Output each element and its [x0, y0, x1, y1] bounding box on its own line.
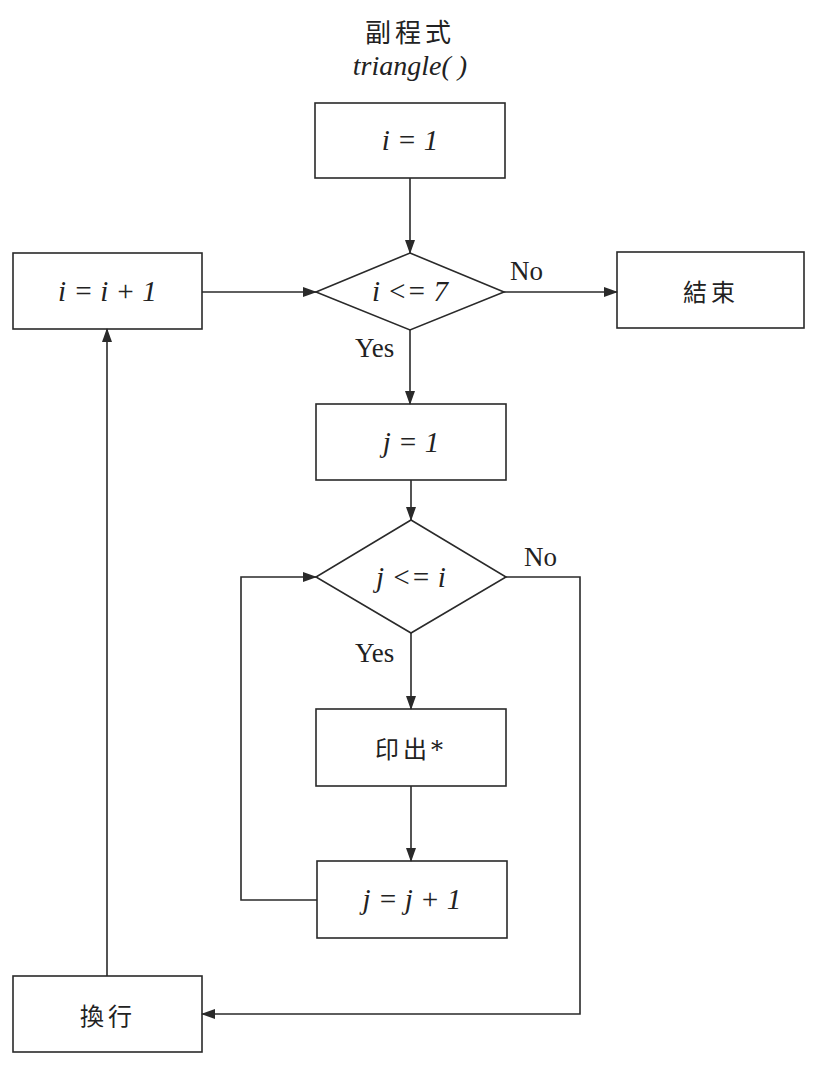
node-inc-j: j = j + 1 [317, 861, 507, 938]
label-cond-i-no: No [510, 256, 543, 287]
node-cond-j: j <= i [330, 540, 492, 614]
label-cond-j-yes: Yes [355, 638, 394, 669]
node-cond-i: i <= 7 [330, 253, 490, 330]
node-print: 印出* [316, 709, 506, 786]
node-inc-i: i = i + 1 [13, 253, 202, 329]
node-init-j: j = 1 [316, 404, 506, 480]
node-newline: 換行 [13, 976, 202, 1052]
node-end: 結束 [617, 252, 804, 328]
edge-inc-j-loop-to-cond-j [241, 577, 317, 900]
label-cond-j-no: No [524, 542, 557, 573]
label-cond-i-yes: Yes [355, 333, 394, 364]
subroutine-label: 副程式 [300, 12, 520, 49]
node-init-i: i = 1 [315, 103, 505, 178]
function-name: triangle( ) [300, 50, 520, 82]
